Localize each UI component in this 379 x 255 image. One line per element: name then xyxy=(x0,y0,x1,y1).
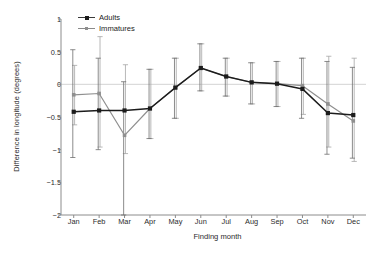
data-point-immatures xyxy=(72,93,76,97)
data-point-adults xyxy=(250,80,254,84)
data-point-adults xyxy=(224,74,228,78)
x-axis-tick-label: Aug xyxy=(245,217,258,226)
data-point-adults xyxy=(97,108,101,112)
data-point-adults xyxy=(275,82,279,86)
data-point-immatures xyxy=(326,102,330,106)
x-axis-tick-label: Jun xyxy=(195,217,207,226)
x-axis-tick-label: Jul xyxy=(221,217,230,226)
data-point-adults xyxy=(351,113,355,117)
x-axis-title: Finding month xyxy=(0,232,379,241)
legend-swatch-immatures xyxy=(78,28,95,29)
chart-figure: Difference in longitude (degrees) 10.50−… xyxy=(0,0,379,255)
data-point-adults xyxy=(326,111,330,115)
data-point-adults xyxy=(173,86,177,90)
x-axis-tick-label: Jan xyxy=(68,217,80,226)
data-point-immatures xyxy=(351,119,355,123)
data-point-adults xyxy=(122,108,126,112)
x-axis-tick-label: Dec xyxy=(347,217,360,226)
x-axis-tick-label: Sep xyxy=(270,217,283,226)
x-axis-tick-label: Apr xyxy=(144,217,156,226)
chart-legend: Adults Immatures xyxy=(78,12,135,34)
data-point-immatures xyxy=(97,92,101,96)
data-point-adults xyxy=(72,110,76,114)
legend-swatch-adults xyxy=(78,17,95,18)
x-axis-tick-label: Oct xyxy=(297,217,309,226)
legend-item-adults: Adults xyxy=(78,12,135,23)
x-axis-tick-label: May xyxy=(168,217,182,226)
x-axis-tick-label: Mar xyxy=(118,217,131,226)
series-line-immatures xyxy=(74,68,354,135)
legend-item-immatures: Immatures xyxy=(78,23,135,34)
x-axis-tick-label: Feb xyxy=(93,217,106,226)
data-point-adults xyxy=(300,87,304,91)
legend-label-adults: Adults xyxy=(99,13,120,22)
data-point-immatures xyxy=(123,133,127,137)
x-axis-tick-label: Nov xyxy=(321,217,334,226)
data-point-adults xyxy=(199,66,203,70)
data-point-adults xyxy=(148,106,152,110)
legend-label-immatures: Immatures xyxy=(99,24,135,33)
